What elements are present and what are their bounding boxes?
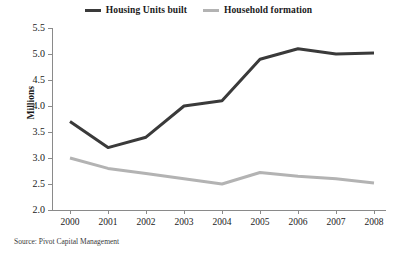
x-axis-tick-label: 2002 — [137, 218, 156, 228]
x-axis-tick — [260, 210, 261, 214]
x-axis-tick-label: 2007 — [327, 218, 346, 228]
y-axis-tick-label: 4.0 — [33, 101, 46, 111]
chart-legend: Housing Units builtHousehold formation — [0, 6, 397, 16]
y-axis-tick-label: 5.0 — [33, 49, 46, 59]
x-axis-tick — [222, 210, 223, 214]
x-axis-tick — [184, 210, 185, 214]
x-axis-tick-label: 2006 — [289, 218, 308, 228]
x-axis-tick — [70, 210, 71, 214]
series-line — [70, 158, 374, 184]
x-axis-tick-label: 2004 — [213, 218, 232, 228]
series-lines — [52, 28, 386, 210]
x-axis-tick — [336, 210, 337, 214]
x-axis-tick-label: 2008 — [365, 218, 384, 228]
x-axis-tick — [374, 210, 375, 214]
y-axis-tick-label: 2.0 — [33, 205, 46, 215]
y-axis-tick-label: 5.5 — [33, 23, 46, 33]
y-axis-tick-label: 3.5 — [33, 127, 46, 137]
x-axis-tick — [298, 210, 299, 214]
x-axis-tick-label: 2000 — [61, 218, 80, 228]
x-axis-tick-label: 2005 — [251, 218, 270, 228]
source-note: Source: Pivot Capital Management — [14, 238, 119, 246]
legend-label: Household formation — [224, 6, 312, 16]
y-axis-tick-label: 3.0 — [33, 153, 46, 163]
y-axis-tick — [48, 210, 52, 211]
plot-area: 2.02.53.03.54.04.55.05.5 200020012002200… — [52, 28, 386, 210]
x-axis-tick-label: 2003 — [175, 218, 194, 228]
x-axis-tick — [146, 210, 147, 214]
x-axis-tick — [108, 210, 109, 214]
chart-figure: Housing Units builtHousehold formation M… — [0, 0, 397, 257]
legend-label: Housing Units built — [106, 6, 187, 16]
legend-entry[interactable]: Housing Units built — [85, 6, 187, 16]
series-line — [70, 49, 374, 148]
y-axis-tick-label: 4.5 — [33, 75, 46, 85]
y-axis-tick-label: 2.5 — [33, 179, 46, 189]
legend-entry[interactable]: Household formation — [203, 6, 312, 16]
legend-swatch-icon — [203, 9, 219, 12]
legend-swatch-icon — [85, 9, 101, 12]
x-axis-tick-label: 2001 — [99, 218, 118, 228]
